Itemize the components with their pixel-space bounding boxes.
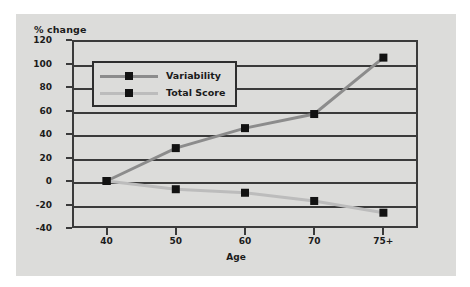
data-point-marker (310, 197, 318, 205)
y-tick-label: 120 (6, 35, 52, 45)
y-axis-label: % change (34, 24, 86, 35)
legend-marker-icon (125, 89, 133, 97)
x-tick-mark (106, 228, 108, 235)
chart-figure: % change 120100806040200-20-40 405060707… (16, 14, 456, 276)
chart-legend: VariabilityTotal Score (92, 61, 237, 107)
y-tick-label: 60 (6, 106, 52, 116)
x-axis-label: Age (16, 252, 456, 262)
x-tick-mark (244, 228, 246, 235)
data-point-marker (103, 177, 111, 185)
y-tick-label: -20 (6, 200, 52, 210)
y-tick-label: 80 (6, 82, 52, 92)
x-tick-mark (175, 228, 177, 235)
legend-label: Total Score (166, 87, 225, 98)
x-tick-label: 60 (220, 236, 270, 246)
series-line (107, 181, 384, 213)
data-point-marker (379, 209, 387, 217)
data-point-marker (241, 189, 249, 197)
legend-marker-icon (125, 72, 133, 80)
data-point-marker (310, 110, 318, 118)
x-tick-label: 40 (82, 236, 132, 246)
legend-swatch (100, 87, 158, 99)
data-point-marker (172, 185, 180, 193)
x-tick-mark (382, 228, 384, 235)
y-tick-label: 40 (6, 129, 52, 139)
y-tick-label: 20 (6, 153, 52, 163)
x-tick-label: 70 (289, 236, 339, 246)
legend-item: Variability (100, 67, 225, 84)
legend-swatch (100, 70, 158, 82)
legend-item: Total Score (100, 84, 225, 101)
legend-label: Variability (166, 70, 221, 81)
y-tick-label: 100 (6, 59, 52, 69)
data-point-marker (241, 124, 249, 132)
x-tick-mark (313, 228, 315, 235)
data-point-marker (172, 144, 180, 152)
y-tick-label: -40 (6, 223, 52, 233)
data-point-marker (379, 54, 387, 62)
x-tick-label: 50 (151, 236, 201, 246)
x-tick-label: 75+ (358, 236, 408, 246)
y-tick-label: 0 (6, 176, 52, 186)
